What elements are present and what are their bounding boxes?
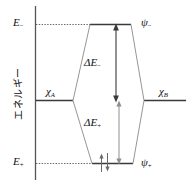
electron-spin-down-arrow	[105, 153, 109, 172]
label-psi-plus-subscript: +	[148, 162, 152, 169]
y-axis-title: エネルギー	[10, 39, 25, 149]
label-chi-a: χA	[46, 86, 55, 99]
label-e-minus-symbol: E	[13, 16, 20, 28]
label-psi-plus-symbol: ψ	[141, 156, 148, 168]
label-e-plus-symbol: E	[13, 155, 20, 167]
label-e-minus-subscript: −	[20, 22, 24, 29]
delta-e-plus-arrow	[116, 101, 121, 165]
label-psi-plus: ψ+	[141, 157, 152, 170]
correlation-line-chib-psiminus	[131, 25, 144, 101]
label-e-plus: E+	[13, 156, 24, 169]
label-e-minus: E−	[13, 17, 24, 30]
label-psi-minus-subscript: −	[148, 22, 152, 29]
label-delta-e-minus-subscript: −	[97, 62, 101, 69]
label-chi-a-subscript: A	[51, 91, 55, 98]
label-delta-e-minus-symbol: ΔE	[84, 56, 97, 68]
correlation-line-chib-psiplus	[133, 101, 144, 164]
label-psi-minus-symbol: ψ	[141, 16, 148, 28]
label-delta-e-plus: ΔE+	[84, 117, 101, 130]
label-e-plus-subscript: +	[20, 161, 24, 168]
label-delta-e-plus-symbol: ΔE	[84, 116, 97, 128]
correlation-line-chia-psiplus	[73, 101, 92, 164]
label-chi-b: χB	[159, 86, 168, 99]
label-delta-e-plus-subscript: +	[97, 122, 101, 129]
label-delta-e-minus: ΔE−	[84, 57, 101, 70]
mo-energy-diagram-figure: エネルギー E− E+ χA χB ψ− ψ+ ΔE− ΔE+	[0, 0, 189, 187]
label-psi-minus: ψ−	[141, 17, 152, 30]
delta-e-minus-arrow	[113, 24, 119, 103]
label-chi-b-subscript: B	[164, 91, 168, 98]
